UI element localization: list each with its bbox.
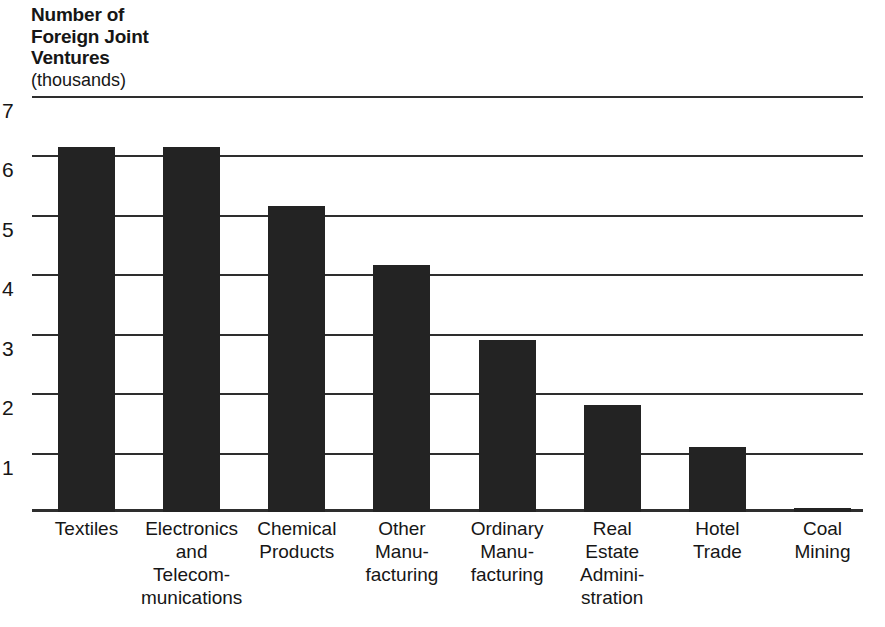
chart-units-label: (thousands) [31, 70, 331, 91]
bar [58, 147, 115, 512]
bars-layer [32, 96, 863, 512]
page-title: Number of Foreign Joint Ventures [31, 4, 331, 69]
x-axis-labels: TextilesElectronics and Telecom- municat… [32, 517, 863, 627]
bar [584, 405, 641, 512]
bar [479, 340, 536, 512]
y-axis-tick-label: 6 [2, 158, 28, 181]
y-axis-tick-label: 2 [2, 396, 28, 419]
bar [163, 147, 220, 512]
y-axis-tick-label: 1 [2, 456, 28, 479]
x-axis-category-label: Coal Mining [753, 517, 885, 563]
bar [268, 206, 325, 512]
y-axis-tick-label: 4 [2, 277, 28, 300]
y-axis-tick-label: 7 [2, 99, 28, 122]
bar [794, 508, 851, 512]
bar-chart: Number of Foreign Joint Ventures (thousa… [0, 0, 885, 627]
y-axis-tick-label: 5 [2, 218, 28, 241]
bar [689, 447, 746, 512]
bar [373, 265, 430, 512]
chart-title-block: Number of Foreign Joint Ventures (thousa… [31, 4, 331, 91]
y-axis-tick-label: 3 [2, 337, 28, 360]
